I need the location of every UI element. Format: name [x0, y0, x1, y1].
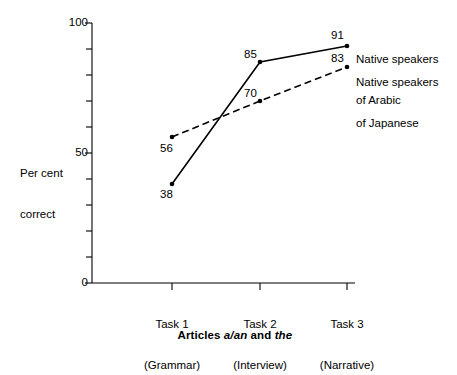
legend-item-japanese: Native speakers of Japanese [356, 49, 457, 157]
x-category-task3-sub: (Narrative) [307, 359, 387, 373]
y-axis-title-line1: Per cent [20, 167, 82, 181]
figure-caption: Articles a/an and the [0, 316, 457, 355]
data-label-arabic-task2: 85 [244, 48, 257, 61]
y-axis-title-line2: correct [20, 208, 82, 222]
y-tick-label-0: 0 [62, 276, 88, 289]
series-markers-arabic [170, 44, 350, 187]
x-category-task2-sub: (Interview) [220, 359, 300, 373]
figure-caption-part-0: Articles [178, 329, 224, 341]
data-label-arabic-task1: 38 [160, 188, 173, 201]
legend-item-japanese-line1: Native speakers [356, 76, 457, 90]
data-label-japanese-task3: 83 [331, 52, 344, 65]
figure-caption-part-1: a/an [224, 329, 247, 341]
series-markers-japanese [170, 65, 350, 140]
legend-item-japanese-line2: of Japanese [356, 117, 457, 131]
x-category-task1-sub: (Grammar) [132, 359, 212, 373]
y-axis-title: Per cent correct [20, 140, 82, 248]
data-label-japanese-task1: 56 [160, 142, 173, 155]
data-label-japanese-task2: 70 [244, 87, 257, 100]
y-tick-label-100: 100 [62, 16, 88, 29]
figure-caption-part-3: the [275, 329, 293, 341]
figure-caption-part-2: and [247, 329, 274, 341]
data-label-arabic-task3: 91 [331, 29, 344, 42]
series-line-arabic [172, 46, 347, 184]
x-axis-ticks [172, 283, 347, 290]
